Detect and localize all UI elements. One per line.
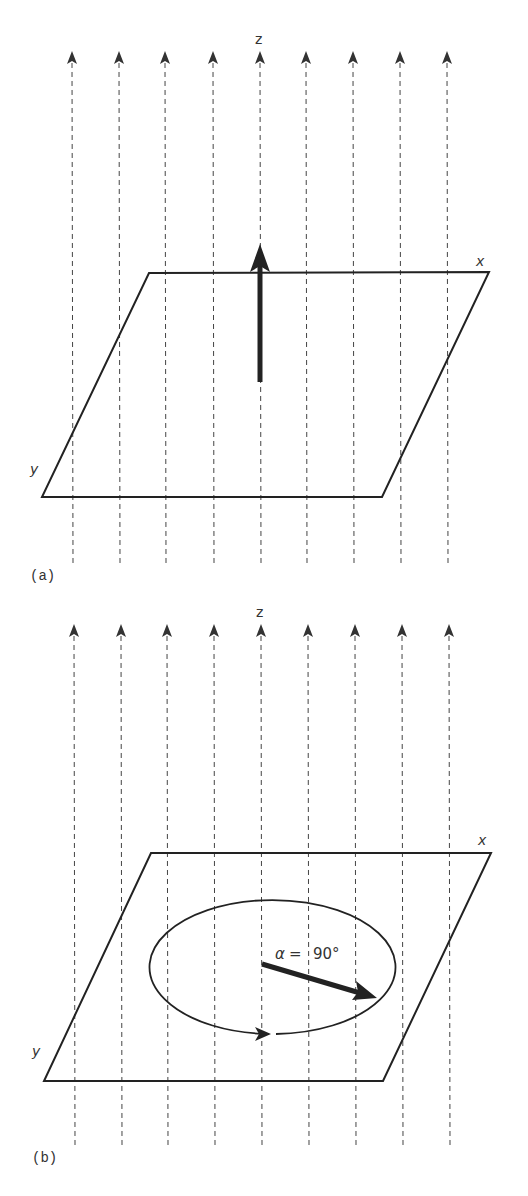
x-axis-label-a: x (475, 253, 485, 269)
field-arrowheads-a (67, 51, 452, 64)
panel-b: z x y α = 90° (b) (31, 604, 491, 1166)
xy-plane-a (42, 272, 489, 497)
field-arrowheads-b (69, 624, 454, 637)
caption-a: (a) (30, 568, 55, 584)
panel-a: z x y (a) (29, 31, 489, 584)
field-lines-b (74, 636, 450, 1145)
magnetization-vector-a (250, 244, 270, 382)
magnetization-vector-b (262, 964, 377, 1000)
caption-b: (b) (32, 1150, 57, 1166)
x-axis-label-b: x (477, 832, 487, 848)
z-axis-label-b: z (256, 604, 263, 620)
z-axis-label-a: z (255, 31, 262, 47)
y-axis-label-a: y (29, 461, 39, 477)
alpha-symbol: α (275, 945, 285, 963)
angle-equals: = (289, 945, 302, 963)
y-axis-label-b: y (31, 1043, 41, 1059)
diagram-canvas: z x y (a) (0, 0, 528, 1196)
flip-angle-label: α = 90° (275, 945, 340, 963)
angle-value: 90° (313, 945, 340, 963)
